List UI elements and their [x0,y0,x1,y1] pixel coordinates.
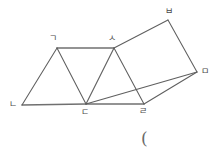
edge-siot-rieul [114,48,144,104]
edge-rieul-mieum [144,72,197,104]
parenthesis-annotation: ( [141,130,148,147]
vertex-label-nieun: ㄴ [9,100,17,109]
vertex-label-mieum: ㅁ [201,67,209,76]
vertex-label-giyeok: ㄱ [49,34,57,43]
vertex-label-digeut: ㄷ [81,108,89,117]
edge-bieup-mieum [168,20,197,72]
vertex-label-rieul: ㄹ [139,107,147,116]
edge-siot-digeut [86,48,114,104]
edge-giyeok-nieun [22,48,57,105]
figure-canvas [0,0,220,158]
geometry-figure: ㄱㄴㄷㄹㅁㅂㅅ ( [0,0,220,158]
vertex-label-bieup: ㅂ [165,7,173,16]
edge-giyeok-digeut [57,48,86,104]
vertex-label-siot: ㅅ [108,34,116,43]
edge-siot-bieup [114,20,168,48]
edge-nieun-digeut [22,104,86,105]
